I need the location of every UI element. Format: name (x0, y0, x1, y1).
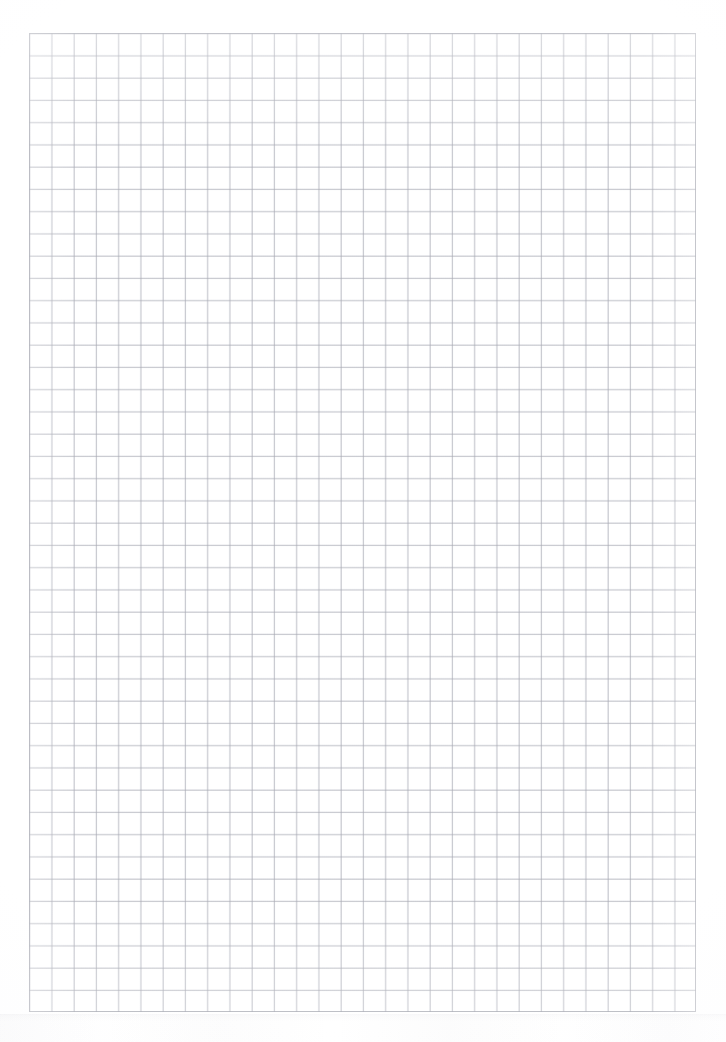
scanned-page (0, 0, 726, 1042)
graph-paper-grid (29, 33, 696, 1012)
scanner-banding-artifact (0, 1014, 726, 1042)
